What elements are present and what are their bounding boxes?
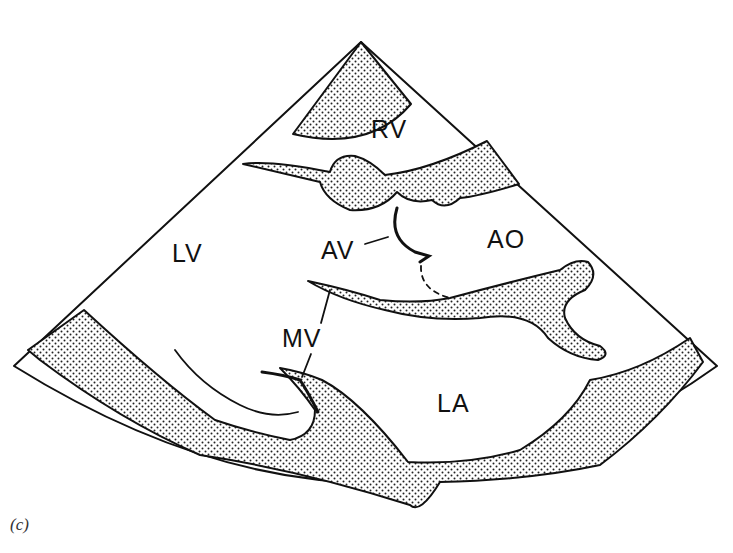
label-lv: LV bbox=[172, 239, 203, 267]
label-mv: MV bbox=[282, 324, 322, 352]
label-ao: AO bbox=[487, 225, 525, 253]
mv-pointer-upper bbox=[321, 290, 330, 323]
posterior-wall-tissue bbox=[28, 310, 703, 507]
septum-tissue bbox=[243, 141, 519, 210]
aortic-valve-dashed bbox=[421, 266, 450, 298]
label-rv: RV bbox=[371, 115, 407, 143]
figure-caption: (c) bbox=[10, 515, 29, 534]
label-la: LA bbox=[437, 389, 470, 417]
echo-diagram: RV LV AV AO MV LA (c) bbox=[0, 0, 733, 553]
aortic-valve-leaflet bbox=[395, 208, 429, 262]
label-av: AV bbox=[321, 236, 355, 264]
posterior-aortic-wall bbox=[308, 261, 606, 360]
av-pointer bbox=[365, 237, 388, 244]
